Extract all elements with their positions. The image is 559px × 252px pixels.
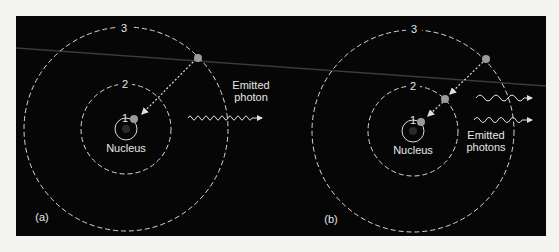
panel-label-a: (a) — [35, 211, 48, 223]
scan-artifact-line — [16, 48, 546, 86]
transition-arrow — [142, 59, 196, 114]
photon-label-line2: photons — [466, 141, 506, 153]
transition-arrow-3-2 — [450, 62, 483, 94]
electron-icon — [130, 115, 138, 123]
photon-label-line1: Emitted — [232, 79, 269, 91]
panel-b: 3 2 1 Nucleus Emitted photons (b) — [312, 22, 532, 232]
nucleus-label: Nucleus — [106, 142, 146, 154]
photon-wave-icon — [474, 118, 532, 123]
bohr-atom-diagram: 3 2 1 Nucleus Emitted photon (a) 3 2 1 N… — [0, 0, 559, 252]
photon-wave-icon — [188, 116, 262, 120]
panel-a: 3 2 1 Nucleus Emitted photon (a) — [24, 22, 270, 231]
photon-wave-icon — [476, 95, 532, 101]
nucleus-label: Nucleus — [393, 144, 433, 156]
nucleus-icon — [122, 125, 130, 133]
nucleus-icon — [409, 127, 417, 135]
orbit-1-label: 1 — [410, 114, 416, 126]
electron-icon — [194, 54, 202, 62]
electron-icon — [441, 95, 449, 103]
panel-label-b: (b) — [324, 213, 337, 225]
electron-icon — [482, 55, 490, 63]
orbit-2-label: 2 — [410, 80, 416, 92]
electron-icon — [417, 118, 425, 126]
transition-arrow-2-1 — [428, 102, 443, 116]
photon-label-line2: photon — [234, 91, 268, 103]
photon-label-line1: Emitted — [467, 129, 504, 141]
orbit-2-label: 2 — [122, 78, 128, 90]
orbit-3-label: 3 — [411, 23, 417, 35]
orbit-3-label: 3 — [121, 22, 127, 34]
orbit-1-label: 1 — [122, 112, 128, 124]
